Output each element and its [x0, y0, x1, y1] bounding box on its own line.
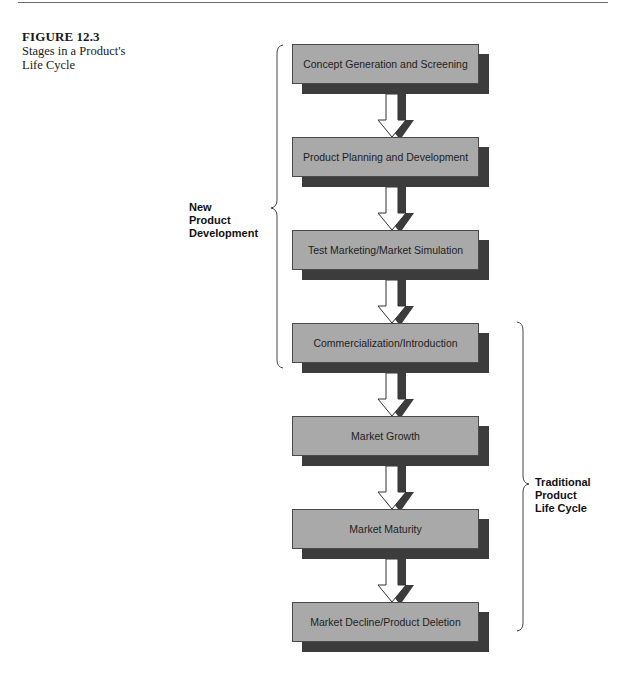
stage-market-maturity: Market Maturity — [292, 509, 479, 549]
stage-market-decline: Market Decline/Product Deletion — [292, 602, 479, 642]
group-label-line: New — [189, 201, 258, 214]
group-label-line: Traditional — [535, 476, 591, 489]
group-label-line: Life Cycle — [535, 502, 591, 515]
stage-box: Market Maturity — [292, 509, 479, 549]
arrow-5-to-6 — [378, 466, 414, 509]
stage-label: Commercialization/Introduction — [313, 337, 457, 349]
stage-market-growth: Market Growth — [292, 416, 479, 456]
stage-box: Product Planning and Development — [292, 137, 479, 177]
stage-test-marketing: Test Marketing/Market Simulation — [292, 230, 479, 270]
stage-label: Test Marketing/Market Simulation — [308, 244, 463, 256]
arrow-2-to-3 — [378, 187, 414, 230]
stage-concept-generation: Concept Generation and Screening — [292, 44, 479, 84]
arrow-6-to-7 — [378, 559, 414, 602]
stage-label: Market Decline/Product Deletion — [310, 616, 461, 628]
arrow-3-to-4 — [378, 280, 414, 323]
stage-box: Commercialization/Introduction — [292, 323, 479, 363]
stage-label: Product Planning and Development — [303, 151, 468, 163]
left-brace-icon — [271, 45, 283, 368]
group-label-line: Product — [189, 214, 258, 227]
right-brace-icon — [517, 322, 529, 631]
group-label-traditional-life-cycle: Traditional Product Life Cycle — [535, 476, 591, 515]
stage-commercialization: Commercialization/Introduction — [292, 323, 479, 363]
group-label-new-product-development: New Product Development — [189, 201, 258, 240]
stage-label: Concept Generation and Screening — [303, 58, 468, 70]
arrow-1-to-2 — [378, 94, 414, 137]
stage-label: Market Maturity — [349, 523, 421, 535]
stage-product-planning: Product Planning and Development — [292, 137, 479, 177]
stage-label: Market Growth — [351, 430, 420, 442]
stage-box: Market Growth — [292, 416, 479, 456]
group-label-line: Development — [189, 227, 258, 240]
group-label-line: Product — [535, 489, 591, 502]
stage-box: Market Decline/Product Deletion — [292, 602, 479, 642]
stage-box: Concept Generation and Screening — [292, 44, 479, 84]
stage-box: Test Marketing/Market Simulation — [292, 230, 479, 270]
arrow-4-to-5 — [378, 373, 414, 416]
